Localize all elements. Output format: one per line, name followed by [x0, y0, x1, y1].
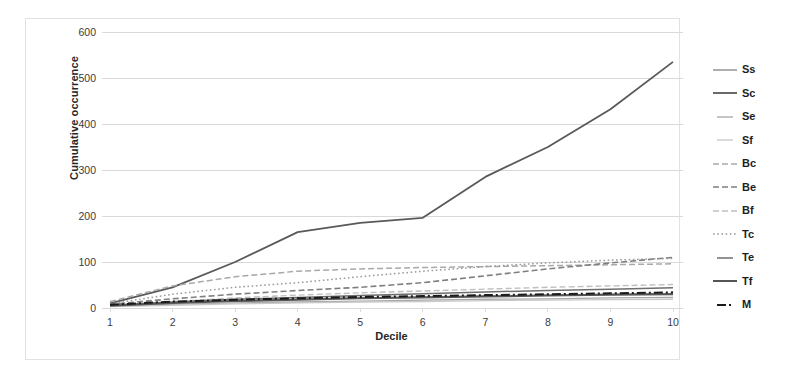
legend-item-be[interactable]: Be: [712, 176, 790, 200]
legend-label: Be: [742, 182, 756, 193]
legend-item-sc[interactable]: Sc: [712, 82, 790, 106]
legend-swatch-sc-icon: [712, 87, 738, 99]
chart-root: Cumulative occurrence Decile 01002003004…: [0, 0, 803, 379]
gridlines: [102, 32, 683, 312]
legend-label: Tc: [742, 229, 754, 240]
chart-legend: SsScSeSfBcBeBfTcTeTfM: [712, 58, 790, 317]
legend-label: M: [742, 299, 751, 310]
legend-swatch-sf-icon: [712, 134, 738, 146]
legend-item-bc[interactable]: Bc: [712, 152, 790, 176]
legend-swatch-te-icon: [712, 252, 738, 264]
legend-item-tc[interactable]: Tc: [712, 223, 790, 247]
plot-area: [0, 0, 803, 379]
legend-item-sf[interactable]: Sf: [712, 129, 790, 153]
legend-item-te[interactable]: Te: [712, 246, 790, 270]
legend-label: Ss: [742, 64, 755, 75]
legend-label: Sc: [742, 88, 755, 99]
legend-item-ss[interactable]: Ss: [712, 58, 790, 82]
legend-swatch-bc-icon: [712, 158, 738, 170]
legend-swatch-bf-icon: [712, 205, 738, 217]
legend-swatch-be-icon: [712, 181, 738, 193]
legend-item-m[interactable]: M: [712, 293, 790, 317]
legend-swatch-m-icon: [712, 299, 738, 311]
legend-label: Sf: [742, 135, 753, 146]
legend-label: Te: [742, 252, 754, 263]
legend-item-bf[interactable]: Bf: [712, 199, 790, 223]
legend-swatch-tf-icon: [712, 275, 738, 287]
legend-swatch-tc-icon: [712, 228, 738, 240]
legend-label: Tf: [742, 276, 752, 287]
legend-label: Bf: [742, 205, 754, 216]
legend-label: Bc: [742, 158, 756, 169]
legend-item-tf[interactable]: Tf: [712, 270, 790, 294]
legend-swatch-se-icon: [712, 111, 738, 123]
legend-label: Se: [742, 111, 755, 122]
legend-item-se[interactable]: Se: [712, 105, 790, 129]
series-lines: [110, 62, 673, 307]
series-line-sc: [110, 62, 673, 304]
legend-swatch-ss-icon: [712, 64, 738, 76]
